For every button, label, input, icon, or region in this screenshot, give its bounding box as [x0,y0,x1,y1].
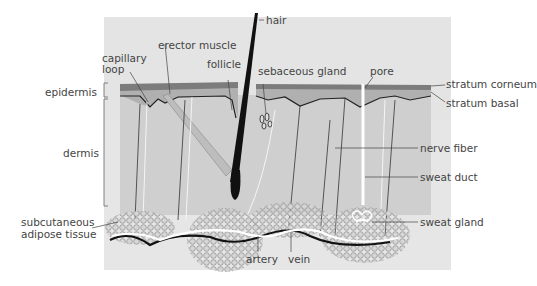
label-stratum-basal: stratum basal [446,97,519,109]
label-hair: hair [266,14,286,26]
label-nerve-fiber: nerve fiber [420,142,478,154]
label-epidermis: epidermis [45,86,97,98]
label-sweat-gland: sweat gland [420,216,484,228]
label-sebaceous-gland: sebaceous gland [258,65,347,77]
label-follicle: follicle [207,58,241,70]
label-subcutaneous: subcutaneous [21,216,94,228]
stratum-corneum-right [256,84,431,90]
label-vein: vein [288,253,310,265]
label-loop: loop [102,63,124,75]
label-stratum-corneum: stratum corneum [446,78,537,90]
dermis-right [258,95,431,215]
label-sweat-duct: sweat duct [420,171,478,183]
label-erector-muscle: erector muscle [158,39,236,51]
label-dermis: dermis [63,147,99,159]
label-artery: artery [246,253,278,265]
label-pore: pore [370,65,394,77]
label-adipose-tissue: adipose tissue [21,228,96,240]
